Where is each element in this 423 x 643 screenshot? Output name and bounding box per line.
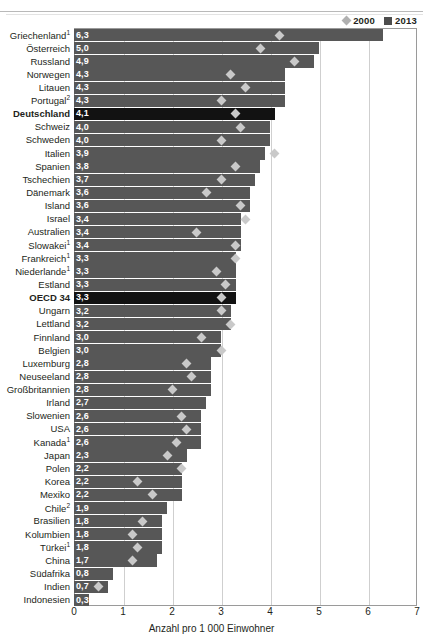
bar-value-label: 1,8 [76,541,89,553]
bar-wrap: 3,9 [74,147,417,159]
bar-wrap: 2,8 [74,371,417,383]
table-row: Belgien3,0 [0,343,423,357]
bar-wrap: 4,1 [74,108,417,120]
bar-2013 [74,68,285,80]
x-tick-1: 1 [120,607,126,617]
bar-value-label: 3,0 [76,344,89,356]
row-label-schweden: Schweden [1,135,73,145]
bar-wrap: 5,0 [74,42,417,54]
table-row: Schweden4,0 [0,133,423,147]
bar-value-label: 2,8 [76,357,89,369]
x-tick-4: 4 [267,607,273,617]
row-label-neuseeland: Neuseeland [1,372,73,382]
row-label-indonesien: Indonesien [1,595,73,605]
bar-2013 [74,463,182,475]
bar-value-label: 3,4 [76,239,89,251]
bar-2013 [74,174,255,186]
bar-2013 [74,344,221,356]
table-row: OECD 343,3 [0,291,423,305]
bar-value-label: 3,9 [76,147,89,159]
bar-value-label: 0,8 [76,568,89,580]
x-tick-0: 0 [71,607,77,617]
bar-wrap: 2,6 [74,423,417,435]
table-row: Japan2,3 [0,448,423,462]
table-row: Italien3,9 [0,146,423,160]
bar-value-label: 3,4 [76,226,89,238]
bar-value-label: 3,6 [76,187,89,199]
table-row: Neuseeland2,8 [0,370,423,384]
bar-wrap: 0,3 [74,594,417,606]
chart-legend: 20002013 [343,16,417,26]
bar-2013 [74,200,250,212]
table-row: Australien3,4 [0,225,423,239]
bar-value-label: 1,9 [76,502,89,514]
footnote-marker: 1 [66,239,70,246]
bar-value-label: 3,2 [76,318,89,330]
row-label-griechenland: Griechenland1 [1,30,73,41]
bar-wrap: 2,6 [74,410,417,422]
row-label-indien: Indien [1,582,73,592]
table-row: Island3,6 [0,199,423,213]
row-label-litauen: Litauen [1,83,73,93]
x-axis-ticks: 01234567 [0,607,423,623]
bar-value-label: 4,9 [76,55,89,67]
bar-wrap: 1,7 [74,554,417,566]
row-label-chile: Chile2 [1,503,73,514]
bar-value-label: 3,3 [76,292,89,304]
marker-2000 [270,148,280,158]
chart-rows: Griechenland16,3Österreich5,0Russland4,9… [0,28,423,606]
bar-value-label: 3,3 [76,279,89,291]
bar-2013 [74,187,250,199]
bar-wrap: 2,2 [74,463,417,475]
table-row: Deutschland4,1 [0,107,423,121]
bar-2013 [74,489,182,501]
bar-wrap: 3,6 [74,200,417,212]
row-label-korea: Korea [1,477,73,487]
bar-wrap: 2,7 [74,397,417,409]
bar-2013 [74,82,285,94]
table-row: Kolumbien1,8 [0,527,423,541]
row-label-gro-britannien: Großbritannien [1,385,73,395]
table-row: Frankreich13,3 [0,251,423,265]
table-row: Indien0,7 [0,580,423,594]
bar-value-label: 2,2 [76,476,89,488]
footnote-marker: 2 [66,502,70,509]
bar-wrap: 0,8 [74,568,417,580]
bar-wrap: 4,3 [74,68,417,80]
footnote-marker: 1 [66,265,70,272]
bar-2013 [74,476,182,488]
table-row: Litauen4,3 [0,81,423,95]
bar-wrap: 3,8 [74,160,417,172]
bar-wrap: 3,3 [74,265,417,277]
row-label-ungarn: Ungarn [1,306,73,316]
row-label-belgien: Belgien [1,346,73,356]
bar-wrap: 2,2 [74,476,417,488]
bar-value-label: 0,3 [76,594,89,606]
square-marker [384,17,392,25]
bar-wrap: 3,4 [74,239,417,251]
bar-2013 [74,147,265,159]
table-row: Estland3,3 [0,278,423,292]
table-row: Kanada12,6 [0,435,423,449]
bar-value-label: 3,2 [76,305,89,317]
row-label-usa: USA [1,424,73,434]
bar-value-label: 6,3 [76,29,89,41]
row-label-lettland: Lettland [1,319,73,329]
bar-2013 [74,397,206,409]
top-rule-primary [0,11,423,12]
bar-2013 [74,108,275,120]
row-label-tschechien: Tschechien [1,175,73,185]
row-label-kanada: Kanada1 [1,437,73,448]
row-label--sterreich: Österreich [1,44,73,54]
bar-value-label: 4,3 [76,95,89,107]
bar-value-label: 3,7 [76,174,89,186]
bar-value-label: 3,8 [76,160,89,172]
row-label-irland: Irland [1,398,73,408]
bar-value-label: 2,6 [76,423,89,435]
bar-wrap: 4,3 [74,95,417,107]
x-tick-5: 5 [316,607,322,617]
bar-wrap: 3,3 [74,292,417,304]
table-row: Portugal24,3 [0,94,423,108]
bar-2013 [74,384,211,396]
x-tick-3: 3 [218,607,224,617]
